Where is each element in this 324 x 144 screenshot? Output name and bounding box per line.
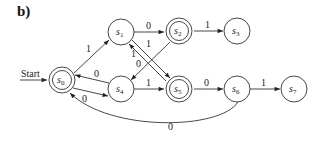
edge-label: 1 (146, 38, 151, 49)
edge-s5-s1: 1 (129, 44, 166, 81)
edge-label: 0 (168, 121, 173, 132)
edge-s0-s4: 0 (73, 88, 108, 104)
edge-label: 0 (136, 58, 141, 69)
edge-label: 1 (86, 43, 91, 54)
state-s1: s1 (108, 19, 134, 45)
state-s0: s0 (49, 67, 75, 93)
state-diagram: Start 1 0 0 0 1 1 1 0 1 0 1 (0, 0, 324, 144)
state-s7: s7 (281, 76, 307, 102)
edge-s5-s6: 0 (194, 77, 223, 89)
edge-s4-s0: 0 (75, 68, 109, 83)
state-s2: s2 (166, 18, 192, 44)
state-s4: s4 (108, 76, 134, 102)
state-s3: s3 (224, 18, 250, 44)
edge-s4-s5: 1 (134, 77, 164, 89)
start-arrow: Start (20, 68, 47, 80)
edge-label: 0 (146, 20, 151, 31)
edge-s0-s1: 1 (74, 40, 109, 73)
edge-s1-s2: 0 (134, 20, 164, 32)
start-label: Start (21, 68, 40, 79)
edge-label: 1 (146, 77, 151, 88)
edge-label: 0 (94, 68, 99, 79)
edge-label: 0 (204, 77, 209, 88)
state-s5: s5 (166, 76, 192, 102)
edge-s6-s0: 0 (70, 93, 238, 132)
edge-label: 1 (205, 19, 210, 30)
edge-s6-s7: 1 (250, 77, 280, 89)
edge-s2-s3: 1 (194, 19, 223, 31)
state-s6: s6 (224, 76, 250, 102)
edge-label: 1 (261, 77, 266, 88)
